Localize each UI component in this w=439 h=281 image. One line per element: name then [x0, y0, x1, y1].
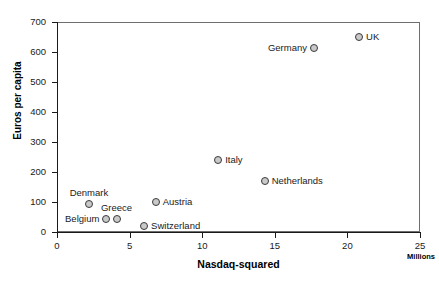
x-tick-mark [275, 232, 276, 238]
x-tick-label: 20 [332, 241, 362, 251]
data-point-label: Germany [268, 43, 307, 53]
data-point-marker [152, 198, 160, 206]
data-point-marker [355, 33, 363, 41]
x-axis-units-note: Millions [407, 252, 435, 261]
data-point-marker [113, 215, 121, 223]
data-point-marker [85, 200, 93, 208]
y-tick-label: 700 [16, 17, 46, 27]
x-axis-line [57, 232, 421, 233]
y-tick-label: 100 [16, 197, 46, 207]
y-tick-mark [52, 22, 58, 23]
y-tick-mark [52, 142, 58, 143]
y-tick-label: 200 [16, 167, 46, 177]
data-point-label: Belgium [65, 214, 99, 224]
data-point-label: Netherlands [272, 176, 323, 186]
data-point-marker [261, 177, 269, 185]
data-point-label: Austria [163, 197, 193, 207]
data-point-label: Denmark [70, 187, 109, 197]
x-tick-mark [347, 232, 348, 238]
x-tick-label: 0 [42, 241, 72, 251]
data-point-label: Switzerland [151, 221, 200, 231]
scatter-chart-figure: 0100200300400500600700 0510152025 Denmar… [0, 0, 439, 281]
data-point-label: Italy [225, 155, 242, 165]
y-tick-label: 0 [16, 227, 46, 237]
x-tick-label: 25 [405, 241, 435, 251]
x-tick-mark [57, 232, 58, 238]
y-tick-mark [52, 82, 58, 83]
x-tick-mark [202, 232, 203, 238]
y-tick-mark [52, 202, 58, 203]
y-tick-mark [52, 52, 58, 53]
data-point-marker [214, 156, 222, 164]
data-point-marker [102, 215, 110, 223]
data-point-marker [310, 44, 318, 52]
x-tick-label: 10 [187, 241, 217, 251]
y-tick-mark [52, 172, 58, 173]
x-axis-title: Nasdaq-squared [57, 258, 420, 270]
y-tick-mark [52, 112, 58, 113]
x-tick-mark [130, 232, 131, 238]
data-point-label: Greece [101, 202, 132, 212]
data-point-label: UK [366, 32, 379, 42]
data-point-marker [140, 222, 148, 230]
x-tick-label: 15 [260, 241, 290, 251]
y-axis-title: Euros per capita [12, 46, 23, 156]
x-tick-mark [420, 232, 421, 238]
x-tick-label: 5 [115, 241, 145, 251]
